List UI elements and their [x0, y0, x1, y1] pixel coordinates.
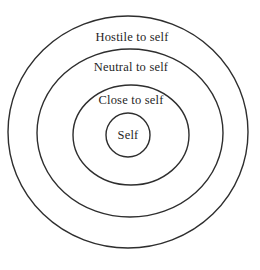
neutral-to-self-label: Neutral to self [94, 60, 169, 74]
hostile-to-self-label: Hostile to self [95, 30, 169, 44]
close-to-self-label: Close to self [98, 93, 164, 107]
self-label: Self [118, 128, 140, 142]
diagram-canvas: Hostile to self Neutral to self Close to… [0, 0, 260, 270]
concentric-self-diagram: Hostile to self Neutral to self Close to… [0, 0, 260, 270]
